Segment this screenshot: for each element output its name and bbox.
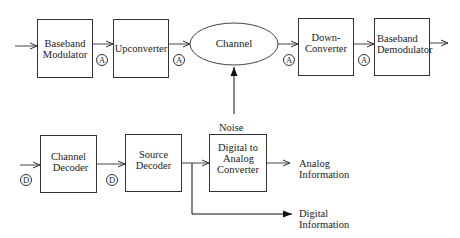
output-label-line: Information xyxy=(299,219,349,230)
block-label: Digital to xyxy=(217,142,259,153)
block-label: Baseband xyxy=(377,33,432,44)
digital-marker: D xyxy=(106,174,118,186)
block-label: Converter xyxy=(217,164,259,175)
analog-information-label: Analog Information xyxy=(299,158,349,180)
block-label: Decoder xyxy=(136,160,172,171)
channel-decoder-block: Channel Decoder xyxy=(40,135,97,193)
digital-to-analog-converter-block: Digital to Analog Converter xyxy=(209,134,267,192)
analog-marker: A xyxy=(173,54,185,66)
channel-label: Channel xyxy=(196,37,272,49)
down-converter-block: Down- Converter xyxy=(298,18,354,76)
source-decoder-block: Source Decoder xyxy=(125,134,182,192)
output-label-line: Digital xyxy=(299,208,349,219)
block-label: Channel xyxy=(49,151,89,162)
block-label: Modulator xyxy=(43,49,87,60)
block-label: Baseband xyxy=(43,38,87,49)
block-label: Source xyxy=(136,149,172,160)
output-label-line: Information xyxy=(299,169,349,180)
baseband-demodulator-block: Baseband Demodulator xyxy=(374,18,430,76)
digital-information-label: Digital Information xyxy=(299,208,349,230)
block-label: Decoder xyxy=(49,162,89,173)
block-label: Upconverter xyxy=(115,43,167,54)
output-label-line: Analog xyxy=(299,158,349,169)
noise-label: Noise xyxy=(219,122,244,133)
block-label: Analog xyxy=(217,153,259,164)
block-label: Converter xyxy=(305,43,347,54)
block-label: Down- xyxy=(305,32,347,43)
block-label: Demodulator xyxy=(377,44,432,55)
analog-marker: A xyxy=(283,54,295,66)
upconverter-block: Upconverter xyxy=(113,19,169,78)
digital-marker: D xyxy=(20,174,32,186)
analog-marker: A xyxy=(96,54,108,66)
baseband-modulator-block: Baseband Modulator xyxy=(37,19,93,78)
analog-marker: A xyxy=(358,54,370,66)
